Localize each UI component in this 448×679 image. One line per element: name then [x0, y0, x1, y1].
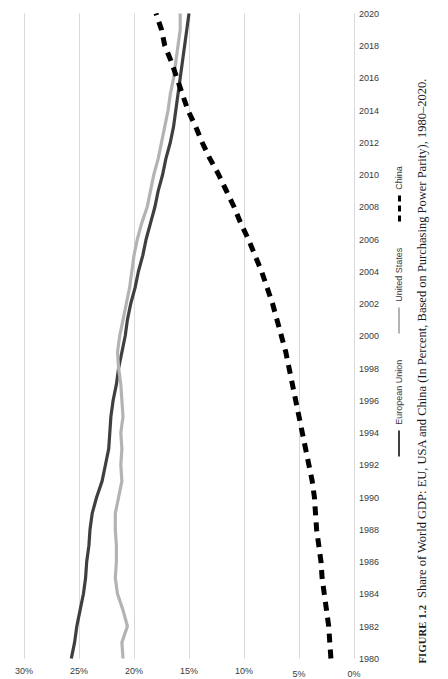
figure-caption: FIGURE 1.2Share of World GDP: EU, USA an…: [415, 8, 430, 663]
x-tick-1998: 1998: [359, 363, 379, 373]
y-tick-20%: 20%: [125, 666, 143, 676]
x-tick-2020: 2020: [359, 8, 379, 18]
legend-label: China: [394, 166, 404, 190]
series-line-european-union: [71, 13, 189, 658]
y-tick-5%: 5%: [292, 668, 305, 678]
x-tick-1990: 1990: [359, 492, 379, 502]
x-tick-1996: 1996: [359, 395, 379, 405]
y-tick-15%: 15%: [180, 666, 198, 676]
x-tick-1994: 1994: [359, 427, 379, 437]
chart-area: 0%5%10%15%20%25%30% 19801982198419861988…: [0, 0, 385, 671]
x-tick-1982: 1982: [359, 621, 379, 631]
chart-legend: European UnionUnited StatesChina: [388, 101, 410, 521]
x-tick-2014: 2014: [359, 105, 379, 115]
x-tick-1992: 1992: [359, 460, 379, 470]
figure-caption-text: Share of World GDP: EU, USA and China (I…: [415, 78, 429, 597]
legend-label: United States: [394, 247, 404, 301]
x-tick-1986: 1986: [359, 556, 379, 566]
legend-swatch-icon: [398, 195, 401, 221]
x-tick-2010: 2010: [359, 169, 379, 179]
x-tick-2018: 2018: [359, 40, 379, 50]
x-tick-2008: 2008: [359, 202, 379, 212]
y-tick-10%: 10%: [235, 666, 253, 676]
legend-swatch-icon: [398, 430, 400, 456]
legend-item-united-states: United States: [394, 247, 404, 333]
x-tick-1984: 1984: [359, 589, 379, 599]
x-tick-2012: 2012: [359, 137, 379, 147]
x-tick-2000: 2000: [359, 331, 379, 341]
series-line-china: [156, 13, 331, 658]
plot-area: [24, 13, 354, 658]
x-tick-2002: 2002: [359, 298, 379, 308]
legend-label: European Union: [394, 359, 404, 424]
legend-swatch-icon: [398, 307, 400, 333]
x-tick-1988: 1988: [359, 524, 379, 534]
figure-caption-label: FIGURE 1.2: [417, 604, 428, 663]
x-tick-1980: 1980: [359, 653, 379, 663]
y-tick-25%: 25%: [70, 666, 88, 676]
x-tick-2004: 2004: [359, 266, 379, 276]
x-tick-2016: 2016: [359, 73, 379, 83]
x-axis-tick-labels: 1980198219841986198819901992199419961998…: [354, 13, 384, 658]
series-lines: [24, 13, 354, 658]
legend-item-china: China: [394, 166, 404, 222]
y-tick-0%: 0%: [347, 668, 360, 678]
x-tick-2006: 2006: [359, 234, 379, 244]
y-tick-30%: 30%: [15, 666, 33, 676]
legend-item-european-union: European Union: [394, 359, 404, 456]
